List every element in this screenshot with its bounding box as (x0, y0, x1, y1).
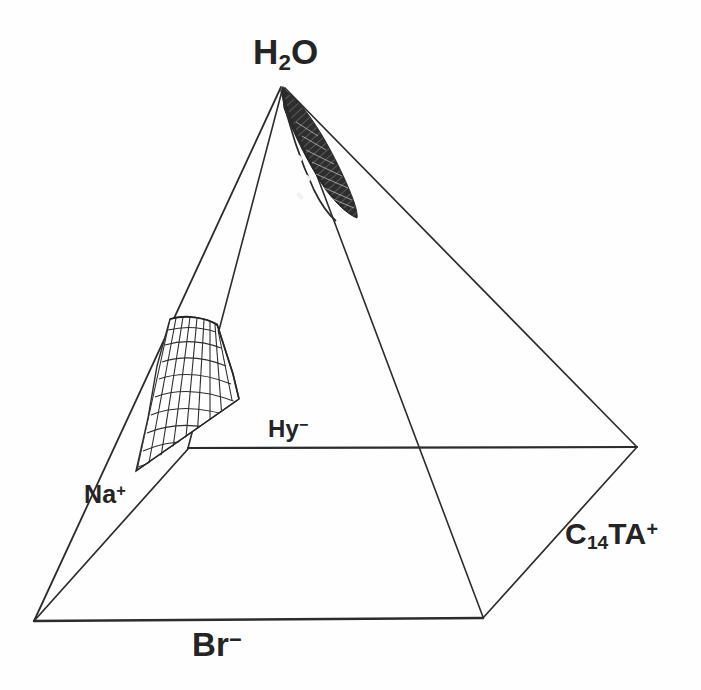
sodium-label-charge: + (116, 481, 126, 499)
edge-water-bromide (34, 87, 281, 621)
hydrotrope-label-charge: − (299, 416, 308, 433)
vertex-label-bromide: Br− (192, 628, 242, 661)
edge-back-horizontal (188, 447, 637, 448)
surfactant-label-main: C (565, 517, 587, 550)
dark-lamellar-lobe (284, 92, 357, 218)
water-label-sub: 2 (278, 50, 290, 75)
edge-water-surfactant (285, 88, 636, 446)
hydrotrope-label-main: Hy (268, 415, 299, 442)
water-label-main: H (253, 32, 278, 71)
dark-lamellar-region (281, 88, 357, 221)
surfactant-label-tail: TA (608, 517, 646, 550)
bromide-label-main: Br (192, 626, 229, 663)
vertex-label-sodium: Na+ (84, 482, 126, 507)
tetrahedron-drawing (0, 0, 701, 690)
surfactant-label-charge: + (646, 518, 658, 540)
edge-bottom-front (34, 618, 483, 621)
vertex-label-water: H2O (253, 34, 318, 75)
phase-diagram-figure: Quaternary phase diagram tetrahedron for… (0, 0, 701, 690)
surfactant-label-sub: 14 (587, 532, 608, 553)
edge-bromide-sodium (34, 449, 188, 621)
vertex-label-hydrotrope: Hy− (268, 417, 308, 441)
vertex-label-surfactant: C14TA+ (565, 519, 658, 553)
bromide-label-charge: − (229, 627, 242, 652)
water-label-tail: O (291, 32, 318, 71)
sodium-label-main: Na (84, 480, 116, 508)
